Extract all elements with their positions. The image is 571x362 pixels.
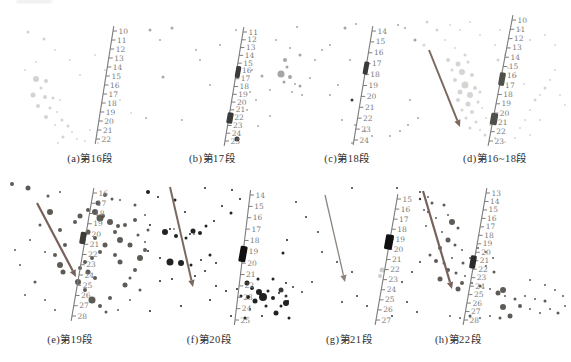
svg-text:22: 22 xyxy=(88,250,98,259)
svg-text:23: 23 xyxy=(361,125,371,134)
svg-text:24: 24 xyxy=(387,285,397,294)
svg-text:27: 27 xyxy=(79,301,89,310)
svg-text:22: 22 xyxy=(363,114,373,123)
svg-text:10: 10 xyxy=(119,27,129,36)
panel-f-caption: (f)第20段 xyxy=(187,331,232,346)
svg-text:17: 17 xyxy=(399,215,409,224)
panel-c-caption: (c)第18段 xyxy=(324,150,370,165)
svg-text:25: 25 xyxy=(231,137,241,146)
svg-text:13: 13 xyxy=(114,54,124,63)
svg-text:18: 18 xyxy=(95,209,105,218)
svg-text:17: 17 xyxy=(97,199,107,208)
svg-text:24: 24 xyxy=(360,136,370,145)
svg-text:21: 21 xyxy=(246,270,256,279)
svg-text:26: 26 xyxy=(383,305,393,314)
svg-text:17: 17 xyxy=(251,225,261,234)
svg-text:21: 21 xyxy=(103,126,113,135)
panel-h-caption: (h)第22段 xyxy=(435,331,481,346)
svg-text:28: 28 xyxy=(470,316,480,325)
panel-g-caption: (g)第21段 xyxy=(326,331,372,346)
svg-text:14: 14 xyxy=(378,27,388,36)
svg-text:21: 21 xyxy=(90,240,100,249)
svg-text:25: 25 xyxy=(385,295,395,304)
svg-text:23: 23 xyxy=(495,137,505,146)
svg-text:26: 26 xyxy=(81,291,91,300)
svg-text:16: 16 xyxy=(374,48,384,57)
svg-text:24: 24 xyxy=(242,304,252,313)
svg-text:27: 27 xyxy=(382,316,392,325)
svg-text:25: 25 xyxy=(83,281,93,290)
svg-text:23: 23 xyxy=(86,260,96,269)
svg-text:19: 19 xyxy=(369,81,379,90)
svg-text:20: 20 xyxy=(92,230,102,239)
svg-text:14: 14 xyxy=(510,53,520,62)
svg-text:15: 15 xyxy=(111,72,121,81)
panel-b-caption: (b)第17段 xyxy=(189,150,235,165)
svg-text:18: 18 xyxy=(503,90,513,99)
svg-text:20: 20 xyxy=(367,92,377,101)
panel-g-group: 15161718192021222324252627 xyxy=(279,187,430,325)
panel-b-group: 111213141516171819202122232425 xyxy=(145,27,277,146)
panel-a-group: 10111213141516171819202122 xyxy=(24,26,132,144)
svg-text:22: 22 xyxy=(245,281,255,290)
scatter-panels-svg: 1011121314151617181920212211121314151617… xyxy=(0,0,571,362)
svg-text:17: 17 xyxy=(505,81,515,90)
svg-text:19: 19 xyxy=(93,219,103,228)
figure: 1011121314151617181920212211121314151617… xyxy=(0,0,571,362)
svg-text:22: 22 xyxy=(496,127,506,136)
svg-text:17: 17 xyxy=(372,59,382,68)
svg-text:21: 21 xyxy=(365,103,375,112)
svg-text:22: 22 xyxy=(102,135,112,144)
svg-text:25: 25 xyxy=(241,316,251,325)
panel-e-group: 16171819202122232425262728 xyxy=(10,182,150,321)
svg-text:21: 21 xyxy=(498,118,508,127)
svg-text:17: 17 xyxy=(109,90,119,99)
svg-text:23: 23 xyxy=(243,293,253,302)
svg-text:10: 10 xyxy=(518,16,528,25)
svg-text:21: 21 xyxy=(392,255,402,264)
svg-text:18: 18 xyxy=(250,236,260,245)
svg-text:24: 24 xyxy=(85,271,95,280)
svg-text:14: 14 xyxy=(113,63,123,72)
svg-text:12: 12 xyxy=(514,34,524,43)
svg-text:23: 23 xyxy=(389,275,399,284)
svg-text:14: 14 xyxy=(256,191,266,200)
svg-text:15: 15 xyxy=(403,195,413,204)
svg-text:15: 15 xyxy=(254,202,264,211)
svg-text:16: 16 xyxy=(99,189,109,198)
svg-text:16: 16 xyxy=(401,205,411,214)
svg-text:12: 12 xyxy=(116,45,126,54)
svg-text:20: 20 xyxy=(247,259,257,268)
svg-text:19: 19 xyxy=(502,99,512,108)
panel-d-caption: (d)第16~18段 xyxy=(463,150,527,165)
svg-text:18: 18 xyxy=(107,99,117,108)
svg-text:19: 19 xyxy=(249,247,259,256)
svg-text:13: 13 xyxy=(512,43,522,52)
svg-text:15: 15 xyxy=(376,37,386,46)
svg-text:22: 22 xyxy=(390,265,400,274)
svg-text:20: 20 xyxy=(394,245,404,254)
svg-text:16: 16 xyxy=(110,81,120,90)
panel-e-caption: (e)第19段 xyxy=(47,331,93,346)
panel-h-group: 13141516171819202122232425262728 xyxy=(423,188,566,325)
svg-text:11: 11 xyxy=(516,25,526,34)
svg-text:16: 16 xyxy=(253,213,263,222)
svg-text:16: 16 xyxy=(507,71,517,80)
panel-a-caption: (a)第16段 xyxy=(67,150,113,165)
svg-text:18: 18 xyxy=(370,70,380,79)
svg-text:19: 19 xyxy=(396,235,406,244)
svg-text:20: 20 xyxy=(104,117,114,126)
panel-c-group: 1415161718192021222324 xyxy=(278,23,420,145)
svg-text:20: 20 xyxy=(500,109,510,118)
svg-text:28: 28 xyxy=(78,312,88,321)
svg-text:15: 15 xyxy=(509,62,519,71)
panel-f-group: 141516171819202122232425 xyxy=(146,187,291,325)
svg-text:18: 18 xyxy=(397,225,407,234)
svg-text:19: 19 xyxy=(106,108,116,117)
svg-text:11: 11 xyxy=(117,36,127,45)
panel-d-group: 1011121314151617181920212223 xyxy=(423,15,567,146)
